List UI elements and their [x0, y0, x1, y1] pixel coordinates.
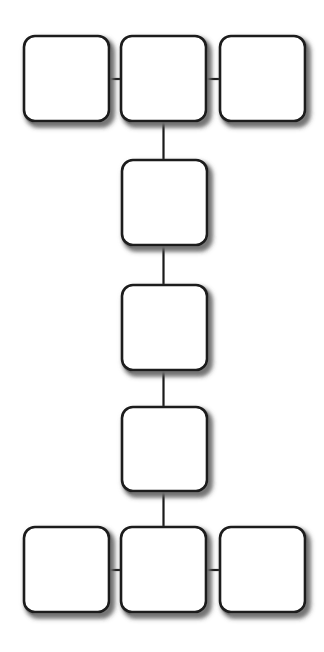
- node-n2[interactable]: [121, 36, 206, 121]
- node-n6[interactable]: [122, 407, 207, 491]
- node-n9[interactable]: [220, 527, 305, 612]
- node-n1[interactable]: [24, 36, 109, 121]
- node-n3[interactable]: [220, 36, 305, 121]
- node-n8[interactable]: [121, 527, 206, 612]
- diagram-svg: [0, 0, 324, 652]
- node-n5[interactable]: [122, 285, 207, 370]
- diagram-canvas: [0, 0, 324, 652]
- node-n7[interactable]: [24, 527, 109, 612]
- node-n4[interactable]: [122, 160, 207, 245]
